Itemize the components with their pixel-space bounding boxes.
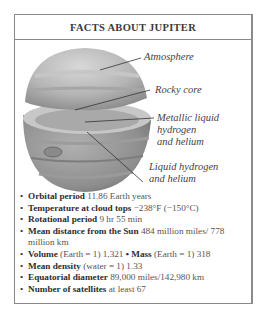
fact-satellites: Number of satellites at least 67 — [19, 284, 247, 296]
label-metallic-line2: hydrogen — [157, 124, 219, 136]
fact-rotational-period: Rotational period 9 hr 55 min — [19, 214, 247, 226]
label-liquid-line2: and helium — [149, 173, 218, 185]
fact-mean-distance: Mean distance from the Sun 484 million m… — [19, 226, 247, 249]
fact-volume-mass: Volume (Earth = 1) 1,321 • Mass (Earth =… — [19, 249, 247, 261]
panel-title: FACTS ABOUT JUPITER — [70, 22, 196, 33]
label-metallic-line3: and helium — [157, 136, 219, 148]
fact-temperature: Temperature at cloud tops −238°F (−150°C… — [19, 203, 247, 215]
facts-list: Orbital period 11.86 Earth years Tempera… — [19, 191, 247, 295]
label-metallic-line1: Metallic liquid — [157, 112, 219, 124]
label-liquid-hydrogen: Liquid hydrogen and helium — [149, 161, 218, 185]
facts-panel: FACTS ABOUT JUPITER — [14, 14, 253, 304]
fact-orbital-period: Orbital period 11.86 Earth years — [19, 191, 247, 203]
jupiter-cutaway-diagram: Atmosphere Rocky core Metallic liquid hy… — [15, 40, 252, 198]
bullet-separator: • — [126, 249, 129, 259]
label-atmosphere: Atmosphere — [144, 51, 194, 63]
label-liquid-line1: Liquid hydrogen — [149, 161, 218, 173]
label-rocky-core: Rocky core — [155, 84, 202, 96]
fact-mean-density: Mean density (water = 1) 1.33 — [19, 261, 247, 273]
fact-equatorial-diameter: Equatorial diameter 89,000 miles/142,980… — [19, 272, 247, 284]
label-metallic-liquid: Metallic liquid hydrogen and helium — [157, 112, 219, 148]
title-bar: FACTS ABOUT JUPITER — [15, 15, 251, 40]
